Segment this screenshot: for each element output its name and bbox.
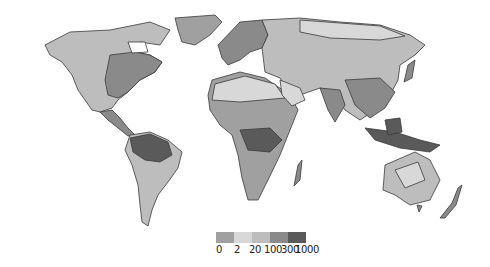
legend-box-20-100 <box>252 232 270 243</box>
legend-color-bar <box>216 232 312 243</box>
legend: 0 2 20 100 300 1000 <box>216 232 312 262</box>
japan <box>404 60 415 82</box>
greenland <box>175 15 222 45</box>
legend-label: 2 <box>234 244 240 255</box>
legend-label: 0 <box>216 244 222 255</box>
legend-label: 100 <box>264 244 282 255</box>
madagascar <box>294 160 302 186</box>
legend-box-2-20 <box>234 232 252 243</box>
hudson-bay <box>128 42 148 53</box>
legend-label: 1000 <box>295 244 319 255</box>
north-america-east <box>105 52 162 98</box>
world-map <box>0 0 490 235</box>
indonesia <box>365 128 440 152</box>
borneo <box>385 118 402 135</box>
europe <box>218 20 268 65</box>
legend-box-300-1000 <box>288 232 306 243</box>
legend-box-100-300 <box>270 232 288 243</box>
legend-box-0-2 <box>216 232 234 243</box>
legend-labels: 0 2 20 100 300 1000 <box>216 244 312 258</box>
tasmania <box>417 205 422 212</box>
legend-label: 20 <box>249 244 261 255</box>
central-america <box>100 110 135 136</box>
new-zealand <box>440 185 462 218</box>
india <box>320 88 345 122</box>
